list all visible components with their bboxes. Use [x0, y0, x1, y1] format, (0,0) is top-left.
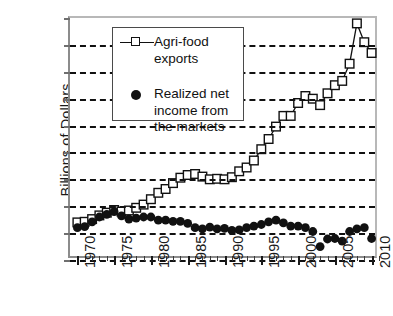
- data-point-dot: [264, 217, 273, 226]
- x-axis-minor-tick: [173, 256, 174, 261]
- x-axis-tick-label: 1990: [230, 236, 246, 268]
- data-point-square: [367, 49, 376, 58]
- data-point-dot: [205, 223, 214, 232]
- y-axis-tick: [64, 206, 70, 208]
- x-axis-minor-tick: [180, 256, 181, 261]
- legend-label-exports: Agri-food exports: [154, 34, 236, 67]
- legend-item-net-income: Realized net income from the markets: [120, 86, 236, 136]
- data-point-dot: [360, 223, 369, 232]
- x-axis-minor-tick: [217, 256, 218, 261]
- y-axis-tick: [64, 260, 70, 262]
- x-axis-tick-label: 1985: [193, 236, 209, 268]
- x-axis-major-tick: [261, 256, 263, 265]
- legend-key-open-square-icon: [120, 34, 154, 51]
- data-point-square: [264, 135, 273, 144]
- data-point-dot: [161, 216, 170, 225]
- x-axis-tick-label: 1995: [266, 236, 282, 268]
- data-point-dot: [198, 224, 207, 233]
- x-axis-major-tick: [114, 256, 116, 265]
- data-point-square: [286, 112, 295, 121]
- x-axis-minor-tick: [210, 256, 211, 261]
- x-axis-minor-tick: [99, 256, 100, 261]
- data-point-dot: [80, 222, 89, 231]
- x-axis-minor-tick: [144, 256, 145, 261]
- data-point-dot: [110, 207, 119, 216]
- x-axis-major-tick: [225, 256, 227, 265]
- y-axis-tick: [64, 99, 70, 101]
- x-axis-tick-label: 1980: [156, 236, 172, 268]
- legend-item-exports: Agri-food exports: [120, 34, 236, 67]
- x-axis-tick-label: 2005: [340, 236, 356, 268]
- x-axis-major-tick: [298, 256, 300, 265]
- x-axis-minor-tick: [254, 256, 255, 261]
- legend-label-net-income: Realized net income from the markets: [154, 86, 236, 136]
- x-axis-tick-label: 1970: [82, 236, 98, 268]
- gridline: [70, 179, 375, 181]
- x-axis-minor-tick: [364, 256, 365, 261]
- y-axis-tick: [64, 45, 70, 47]
- y-axis-tick: [64, 72, 70, 74]
- data-point-square: [345, 59, 354, 68]
- data-point-dot: [294, 222, 303, 231]
- x-axis-minor-tick: [320, 256, 321, 261]
- legend-key-filled-circle-icon: [120, 86, 154, 103]
- y-axis-tick: [64, 126, 70, 128]
- x-axis-major-tick: [77, 256, 79, 265]
- data-point-square: [250, 156, 259, 165]
- data-point-dot: [353, 224, 362, 233]
- gridline: [70, 152, 375, 154]
- data-point-dot: [88, 217, 97, 226]
- x-axis-minor-tick: [291, 256, 292, 261]
- x-axis-minor-tick: [107, 256, 108, 261]
- x-axis-minor-tick: [283, 256, 284, 261]
- data-point-dot: [183, 219, 192, 228]
- data-point-dot: [242, 223, 251, 232]
- x-axis-tick-label: 2000: [303, 236, 319, 268]
- x-axis-minor-tick: [357, 256, 358, 261]
- data-point-dot: [367, 234, 376, 243]
- data-point-square: [338, 77, 347, 86]
- gridline: [70, 206, 375, 208]
- x-axis-major-tick: [188, 256, 190, 265]
- x-axis-tick-label: 2010: [377, 236, 393, 268]
- data-point-dot: [250, 222, 259, 231]
- data-point-dot: [132, 214, 141, 223]
- x-axis-minor-tick: [328, 256, 329, 261]
- y-axis-tick: [64, 179, 70, 181]
- y-axis-tick: [64, 18, 70, 20]
- x-axis-tick-label: 1975: [119, 236, 135, 268]
- data-point-square: [353, 19, 362, 28]
- y-axis-tick: [64, 233, 70, 235]
- data-point-square: [316, 101, 325, 110]
- x-axis-minor-tick: [247, 256, 248, 261]
- data-point-square: [323, 89, 332, 98]
- x-axis-major-tick: [335, 256, 337, 265]
- x-axis-major-tick: [151, 256, 153, 265]
- data-point-dot: [220, 224, 229, 233]
- x-axis-major-tick: [372, 256, 374, 265]
- x-axis-minor-tick: [136, 256, 137, 261]
- chart-legend: Agri-food exports Realized net income fr…: [112, 27, 244, 121]
- gridline: [70, 233, 375, 235]
- y-axis-tick: [64, 152, 70, 154]
